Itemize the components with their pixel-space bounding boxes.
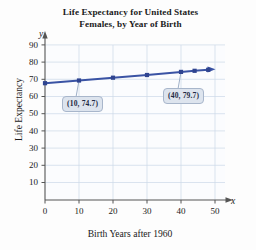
data-point [193, 69, 197, 73]
x-axis-arrow [226, 197, 234, 202]
data-point [43, 81, 47, 85]
data-point [179, 70, 183, 74]
data-point [111, 76, 115, 80]
data-annotation-callout: (40, 79.7) [163, 88, 204, 104]
data-point [145, 73, 149, 77]
x-axis-label: Birth Years after 1960 [30, 228, 230, 239]
chart-figure: Life Expectancy for United States Female… [0, 0, 256, 250]
y-axis-label: Life Expectancy [13, 64, 24, 156]
x-tick-label-30: 30 [138, 206, 156, 216]
y-axis-arrow [42, 31, 47, 39]
x-tick-label-50: 50 [206, 206, 224, 216]
data-point [206, 68, 210, 72]
y-tick-label-20: 20 [20, 160, 38, 170]
x-tick-label-20: 20 [104, 206, 122, 216]
y-tick-label-90: 90 [20, 40, 38, 50]
data-annotation-callout: (10, 74.7) [62, 96, 103, 112]
y-tick-label-10: 10 [20, 177, 38, 187]
x-tick-label-10: 10 [70, 206, 88, 216]
x-tick-label-0: 0 [36, 206, 54, 216]
x-tick-label-40: 40 [172, 206, 190, 216]
data-point [77, 78, 81, 82]
plot-background [45, 45, 225, 200]
